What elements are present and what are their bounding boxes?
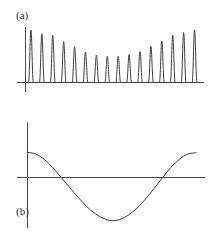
panel-a-plot <box>0 0 213 115</box>
panel-b: (b) <box>0 100 213 231</box>
panel-a-pulse-train <box>26 30 201 83</box>
panel-a: (a) <box>0 0 213 115</box>
panel-b-plot <box>0 100 213 231</box>
figure-root: (a) (b) <box>0 0 213 231</box>
panel-b-cosine-wave <box>28 152 197 220</box>
